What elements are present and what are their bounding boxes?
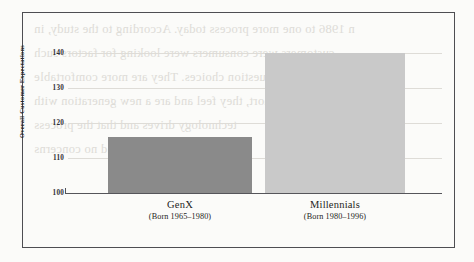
scanned-page-background: n 1986 to one more process today. Accord… xyxy=(0,0,474,262)
chart-frame xyxy=(22,12,455,248)
